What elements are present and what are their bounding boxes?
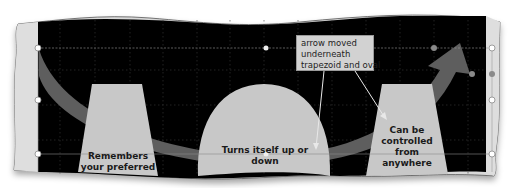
resize-handle-middle-left[interactable] [35, 97, 41, 103]
right-trapezoid-label-line3: from [372, 147, 442, 158]
resize-handle-bottom-left[interactable] [35, 151, 41, 157]
left-trapezoid-label-line2: your preferred [78, 162, 158, 173]
right-trapezoid-label-line1: Can be [372, 125, 442, 136]
left-trapezoid-label-line1: Remembers [78, 151, 158, 162]
oval-label-line2: down [210, 156, 320, 167]
adjust-handle-right[interactable] [489, 71, 495, 77]
callout-line3: trapezoid and oval [301, 60, 369, 71]
resize-handle-top-right[interactable] [489, 45, 495, 51]
oval-label-line1: Turns itself up or [210, 145, 320, 156]
left-frame-strip [14, 22, 38, 172]
adjust-handle-top[interactable] [431, 45, 437, 51]
callout-line2: underneath [301, 49, 369, 60]
adjust-handle-arrow-head[interactable] [469, 71, 475, 77]
oval-label: Turns itself up or down [210, 145, 320, 167]
slide-screenshot: Remembers your preferred Turns itself up… [0, 0, 520, 188]
right-trapezoid-label: Can be controlled from anywhere [372, 125, 442, 169]
resize-handle-top-left[interactable] [35, 45, 41, 51]
resize-handle-bottom-right[interactable] [489, 151, 495, 157]
callout-line1: arrow moved [301, 38, 369, 49]
resize-handle-middle-right[interactable] [489, 97, 495, 103]
left-trapezoid-label: Remembers your preferred [78, 151, 158, 173]
right-trapezoid-label-line2: controlled [372, 136, 442, 147]
annotation-callout: arrow moved underneath trapezoid and ova… [296, 35, 374, 71]
right-trapezoid-label-line4: anywhere [372, 158, 442, 169]
resize-handle-top-middle[interactable] [264, 46, 269, 51]
